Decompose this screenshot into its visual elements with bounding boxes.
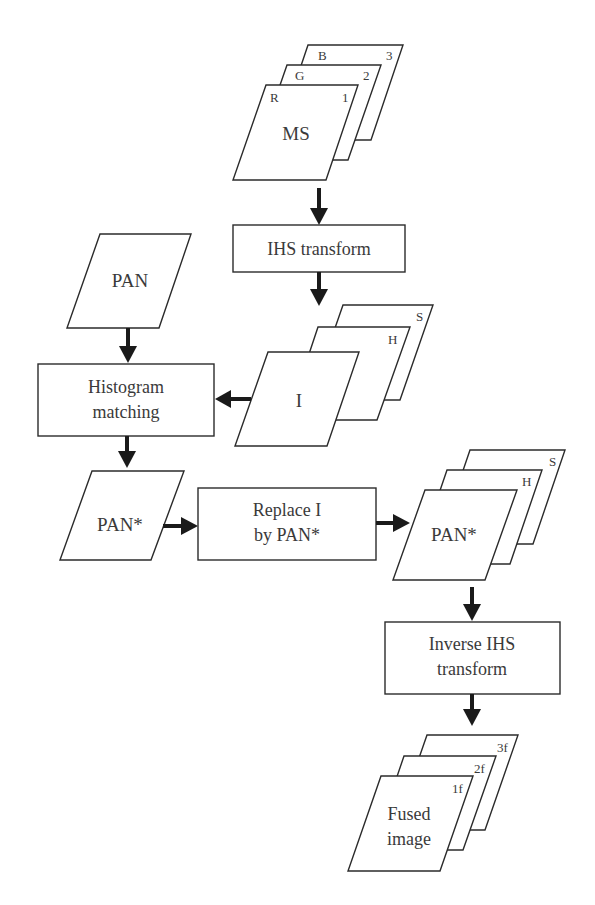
band-label-s2: S [549, 454, 556, 469]
band-label-h: H [388, 332, 397, 347]
histogram-matching-box: Histogram matching [38, 364, 214, 436]
fused-sheet-1f: 1f Fused image [348, 776, 473, 871]
band-label-g: G [295, 68, 304, 83]
arrow-panstar-to-replace [163, 517, 198, 535]
band-index-3: 3 [386, 48, 393, 63]
ihs-sheet-i: I [235, 352, 359, 446]
ihs-transform-label: IHS transform [267, 239, 370, 259]
histogram-label-line1: Histogram [88, 377, 164, 397]
arrow-pan-to-histogram [119, 328, 137, 363]
pan-label: PAN [112, 270, 149, 291]
fused-stack: 3f 2f 1f Fused image [348, 735, 518, 871]
replace-box: Replace I by PAN* [198, 488, 376, 560]
inverse-ihs-box: Inverse IHS transform [385, 622, 560, 694]
ihs-stack: S H I [235, 305, 433, 446]
arrow-stack-to-inverse [463, 587, 481, 621]
band-label-h2: H [522, 474, 531, 489]
replaced-stack: S H PAN* [393, 450, 565, 580]
band-index-1f: 1f [452, 781, 464, 796]
i-label: I [296, 390, 302, 411]
ms-label: MS [282, 123, 309, 144]
arrow-inverse-to-fused [463, 694, 481, 726]
band-label-r: R [270, 90, 279, 105]
ihs-transform-box: IHS transform [233, 225, 405, 272]
inverse-label-line2: transform [437, 659, 507, 679]
arrow-ihs-to-stack [310, 272, 328, 306]
replace-label-line2: by PAN* [254, 525, 320, 545]
arrow-ms-to-ihs [310, 188, 328, 225]
pan-star: PAN* [60, 471, 184, 560]
ms-sheet-r: R 1 MS [233, 85, 358, 180]
arrow-histogram-to-panstar [118, 436, 136, 468]
fused-label-line2: image [387, 829, 431, 849]
replaced-sheet-panstar: PAN* [393, 490, 517, 580]
ms-stack: B 3 G 2 R 1 MS [233, 45, 403, 180]
band-label-b: B [318, 48, 327, 63]
pan-star-label: PAN* [97, 514, 143, 535]
replaced-panstar-label: PAN* [431, 524, 477, 545]
band-index-2: 2 [363, 68, 370, 83]
histogram-label-line2: matching [93, 402, 160, 422]
pan-input: PAN [67, 234, 191, 328]
ihs-fusion-flowchart: B 3 G 2 R 1 MS IHS transform PAN [0, 0, 595, 905]
inverse-label-line1: Inverse IHS [429, 634, 515, 654]
fused-label-line1: Fused [387, 804, 430, 824]
band-label-s: S [416, 309, 423, 324]
replace-label-line1: Replace I [253, 500, 321, 520]
band-index-3f: 3f [497, 740, 509, 755]
arrow-replace-to-stack [376, 514, 410, 532]
band-index-1: 1 [342, 90, 349, 105]
band-index-2f: 2f [474, 761, 486, 776]
arrow-i-to-histogram [215, 390, 251, 408]
